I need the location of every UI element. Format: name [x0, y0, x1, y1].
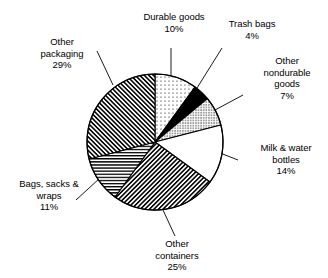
slice-label-milk-water-bottles: Milk & water bottles 14% [245, 142, 327, 177]
slice-label-other-nondurable-goods: Other nondurable goods 7% [251, 55, 323, 101]
slice-label-trash-bags: Trash bags 4% [216, 18, 288, 41]
slice-label-milk-water-bottles-line1: Milk & water [245, 142, 327, 154]
slice-label-other-containers-percent: 25% [140, 261, 214, 273]
slice-label-other-nondurable-goods-percent: 7% [251, 90, 323, 102]
slice-label-other-nondurable-goods-line2: nondurable [251, 67, 323, 79]
slice-label-trash-bags-line1: Trash bags [216, 18, 288, 30]
slice-label-durable-goods: Durable goods 10% [128, 11, 220, 34]
slice-label-other-containers-line2: containers [140, 250, 214, 262]
slice-label-other-containers: Other containers 25% [140, 238, 214, 273]
slice-label-other-nondurable-goods-line1: Other [251, 55, 323, 67]
pie-chart-figure: Durable goods 10% Trash bags 4% Other no… [0, 0, 328, 278]
slice-label-trash-bags-percent: 4% [216, 30, 288, 42]
slice-label-other-packaging: Other packaging 29% [22, 36, 102, 71]
slice-label-bags-sacks-wraps-line2: wraps [6, 190, 92, 202]
slice-label-bags-sacks-wraps-percent: 11% [6, 201, 92, 213]
leader-line-trash-bags [197, 48, 222, 88]
slice-label-durable-goods-line1: Durable goods [128, 11, 220, 23]
slice-label-other-packaging-line1: Other [22, 36, 102, 48]
slice-label-other-nondurable-goods-line3: goods [251, 78, 323, 90]
slice-label-other-containers-line1: Other [140, 238, 214, 250]
slice-label-durable-goods-percent: 10% [128, 23, 220, 35]
slice-label-milk-water-bottles-percent: 14% [245, 165, 327, 177]
slice-label-bags-sacks-wraps: Bags, sacks & wraps 11% [6, 178, 92, 213]
leader-line-other-containers [163, 210, 175, 236]
slice-label-milk-water-bottles-line2: bottles [245, 154, 327, 166]
leader-line-other-nondurable [215, 95, 243, 110]
slice-label-other-packaging-percent: 29% [22, 59, 102, 71]
slice-label-bags-sacks-wraps-line1: Bags, sacks & [6, 178, 92, 190]
pie-slices-group [87, 74, 223, 210]
slice-label-other-packaging-line2: packaging [22, 48, 102, 60]
